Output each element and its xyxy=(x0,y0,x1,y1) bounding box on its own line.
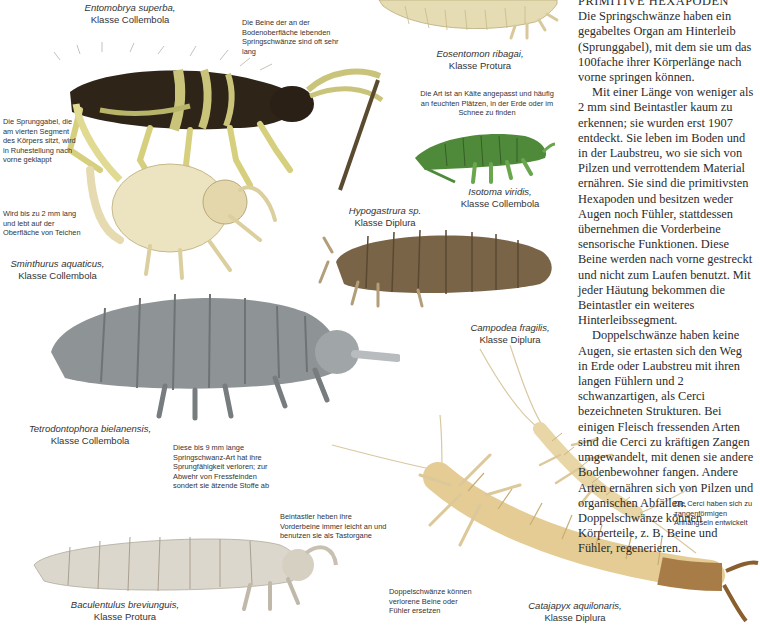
isotoma-illustration xyxy=(405,118,555,188)
class-name: Klasse Protura xyxy=(420,60,540,72)
note-two-mm: Wird bis zu 2 mm lang und lebt auf der O… xyxy=(3,209,85,238)
species-name: Catajapyx aquilonaris, xyxy=(520,600,630,612)
species-name: Entomobrya superba, xyxy=(70,2,190,14)
caption-sminthurus: Sminthurus aquaticus, Klasse Collembola xyxy=(0,258,115,282)
caption-eosentomon: Eosentomon ribagai, Klasse Protura xyxy=(420,48,540,72)
caption-catajapyx: Catajapyx aquilonaris, Klasse Diplura xyxy=(520,600,630,624)
paragraph-doppelschwaenze: Doppelschwänze haben keine Augen, sie er… xyxy=(578,328,754,556)
eosentomon-illustration xyxy=(375,0,565,45)
class-name: Klasse Diplura xyxy=(335,217,435,229)
note-nine-mm: Diese bis 9 mm lange Springschwanz-Art h… xyxy=(173,443,283,491)
note-cold: Die Art ist an Kälte angepasst und häufi… xyxy=(418,89,556,118)
paragraph-springschwaenze: Die Springschwänze haben ein gegabeltes … xyxy=(578,9,754,85)
species-name: Isotoma viridis, xyxy=(440,186,560,198)
class-name: Klasse Collembola xyxy=(440,198,560,210)
section-heading: PRIMITIVE HEXAPODEN xyxy=(578,0,754,9)
article-body: PRIMITIVE HEXAPODEN Die Springschwänze h… xyxy=(578,0,754,557)
species-name: Hypogastrura sp. xyxy=(335,205,435,217)
caption-hypogastrura: Hypogastrura sp. Klasse Diplura xyxy=(335,205,435,229)
class-name: Klasse Collembola xyxy=(70,14,190,26)
species-name: Eosentomon ribagai, xyxy=(420,48,540,60)
note-regenerate: Doppelschwänze können verlorene Beine od… xyxy=(389,587,475,616)
caption-baculentulus: Baculentulus breviunguis, Klasse Protura xyxy=(65,599,185,623)
species-name: Baculentulus breviunguis, xyxy=(65,599,185,611)
species-name: Sminthurus aquaticus, xyxy=(0,258,115,270)
class-name: Klasse Collembola xyxy=(0,270,115,282)
class-name: Klasse Collembola xyxy=(25,435,155,447)
species-name: Tetrodontophora bielanensis, xyxy=(25,423,155,435)
class-name: Klasse Protura xyxy=(65,611,185,623)
note-front-legs: Beintastler heben ihre Vorderbeine immer… xyxy=(280,512,390,541)
caption-entomobrya: Entomobrya superba, Klasse Collembola xyxy=(70,2,190,26)
class-name: Klasse Diplura xyxy=(455,334,565,346)
caption-tetrodontophora: Tetrodontophora bielanensis, Klasse Coll… xyxy=(25,423,155,447)
class-name: Klasse Diplura xyxy=(520,612,630,624)
caption-campodea: Campodea fragilis, Klasse Diplura xyxy=(455,322,565,346)
note-legs-long: Die Beine der an der Bodenoberfläche leb… xyxy=(242,18,346,56)
note-sprunggabel: Die Sprunggabel, die am vierten Segment … xyxy=(3,117,79,165)
caption-isotoma: Isotoma viridis, Klasse Collembola xyxy=(440,186,560,210)
paragraph-beintastler: Mit einer Länge von weniger als 2 mm sin… xyxy=(578,85,754,328)
species-name: Campodea fragilis, xyxy=(455,322,565,334)
